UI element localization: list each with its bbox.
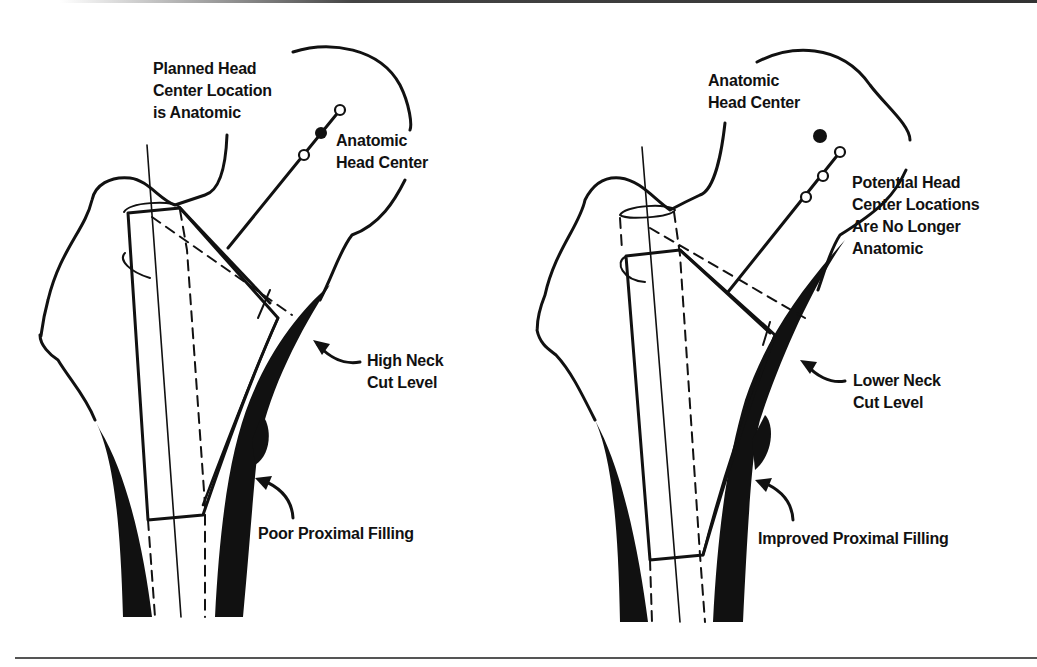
left-planned-head-label: Planned Head Center Location is Anatomic	[153, 58, 272, 124]
label-line: Anatomic	[708, 70, 800, 92]
left-neck-cut-label: High Neck Cut Level	[367, 350, 443, 394]
label-line: Center Locations	[852, 194, 980, 216]
right-neck-cut-line	[680, 250, 770, 333]
right-filling-label: Improved Proximal Filling	[758, 528, 949, 550]
right-anatomic-head-dot	[813, 129, 827, 143]
left-anatomic-head-label: Anatomic Head Center	[336, 130, 428, 174]
label-line: Improved Proximal Filling	[758, 528, 949, 550]
right-anatomic-head-label: Anatomic Head Center	[708, 70, 800, 114]
label-line: Anatomic	[336, 130, 428, 152]
left-medial-cortex	[215, 285, 330, 617]
bottom-rule	[15, 657, 1037, 659]
right-head-dot-lower	[801, 192, 811, 202]
left-head-dot-upper	[335, 105, 345, 115]
left-head-dot-lower	[299, 150, 309, 160]
right-neck-cut-label: Lower Neck Cut Level	[853, 370, 941, 414]
right-potential-head-label: Potential Head Center Locations Are No L…	[852, 172, 980, 260]
label-line: Head Center	[336, 152, 428, 174]
label-line: Anatomic	[852, 238, 980, 260]
label-line: is Anatomic	[153, 102, 272, 124]
label-line: Potential Head	[852, 172, 980, 194]
right-dashed-stem	[620, 212, 805, 622]
label-line: Cut Level	[853, 392, 941, 414]
label-line: Poor Proximal Filling	[258, 523, 414, 545]
left-anatomic-head-dot	[315, 127, 327, 139]
label-line: Lower Neck	[853, 370, 941, 392]
label-line: Are No Longer	[852, 216, 980, 238]
label-line: Planned Head	[153, 58, 272, 80]
left-filling-label: Poor Proximal Filling	[258, 523, 414, 545]
left-trochanter-loop	[123, 253, 150, 278]
left-neck-cut-line	[180, 208, 270, 303]
right-head-dot-middle	[818, 171, 828, 181]
label-line: Cut Level	[367, 372, 443, 394]
label-line: High Neck	[367, 350, 443, 372]
right-trochanter-loop	[621, 257, 645, 282]
label-line: Head Center	[708, 92, 800, 114]
right-head-dot-upper	[835, 147, 845, 157]
right-greater-trochanter-outline	[537, 123, 725, 420]
left-femoral-axis	[147, 145, 181, 617]
label-line: Center Location	[153, 80, 272, 102]
